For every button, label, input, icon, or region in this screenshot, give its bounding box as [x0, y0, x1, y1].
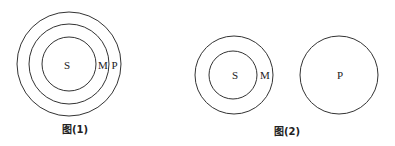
caption-figure-2: 图(2): [274, 126, 300, 137]
figure-1: S M P 图(1): [17, 12, 121, 135]
label-m: M: [260, 69, 270, 81]
label-s: S: [232, 69, 238, 81]
caption-figure-1: 图(1): [62, 124, 88, 135]
euler-diagrams: S M P 图(1) S M P 图(2): [0, 0, 395, 146]
label-p: P: [111, 59, 117, 71]
label-s: S: [64, 59, 70, 71]
figure-2: S M P 图(2): [195, 36, 378, 137]
label-p: P: [337, 69, 343, 81]
label-m: M: [98, 59, 108, 71]
